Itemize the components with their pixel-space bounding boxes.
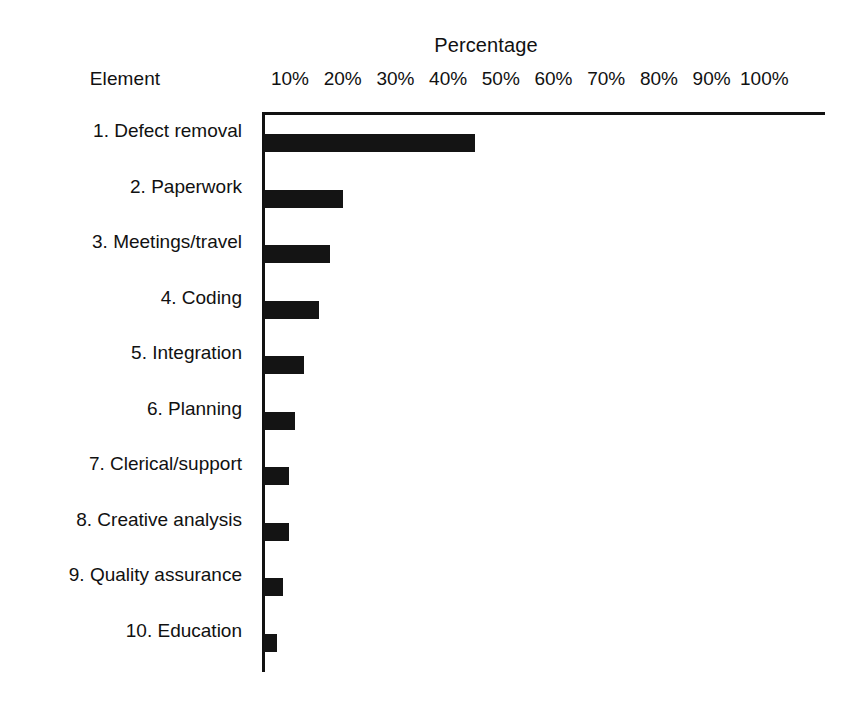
category-label: 9. Quality assurance <box>69 564 242 586</box>
bar <box>264 467 289 485</box>
y-axis-title: Element <box>0 68 250 90</box>
bar <box>264 356 304 374</box>
x-tick-label: 80% <box>640 68 678 90</box>
category-label: 1. Defect removal <box>93 120 242 142</box>
top-axis-line <box>262 112 825 115</box>
x-tick-label: 100% <box>740 68 789 90</box>
x-tick-label: 90% <box>693 68 731 90</box>
x-tick-label: 70% <box>587 68 625 90</box>
x-tick-label: 50% <box>482 68 520 90</box>
x-tick-label: 40% <box>429 68 467 90</box>
category-label: 10. Education <box>126 620 242 642</box>
bar <box>264 245 330 263</box>
category-label: 7. Clerical/support <box>89 453 242 475</box>
bar <box>264 134 475 152</box>
plot-area <box>262 112 827 672</box>
x-tick-label: 60% <box>534 68 572 90</box>
bar <box>264 412 295 430</box>
category-label: 3. Meetings/travel <box>92 231 242 253</box>
bar <box>264 578 283 596</box>
bar <box>264 190 343 208</box>
x-axis-tick-labels: 10%20%30%40%50%60%70%80%90%100% <box>262 68 828 94</box>
bar-chart: Percentage Element 10%20%30%40%50%60%70%… <box>0 0 852 714</box>
x-tick-label: 20% <box>324 68 362 90</box>
category-label: 8. Creative analysis <box>76 509 242 531</box>
category-label: 6. Planning <box>147 398 242 420</box>
bar <box>264 634 277 652</box>
x-axis-title: Percentage <box>0 34 852 57</box>
category-label: 5. Integration <box>131 342 242 364</box>
bar <box>264 523 289 541</box>
category-label: 2. Paperwork <box>130 176 242 198</box>
x-tick-label: 30% <box>376 68 414 90</box>
category-label-column: 1. Defect removal2. Paperwork3. Meetings… <box>0 112 252 672</box>
category-label: 4. Coding <box>161 287 242 309</box>
x-tick-label: 10% <box>271 68 309 90</box>
bar <box>264 301 319 319</box>
